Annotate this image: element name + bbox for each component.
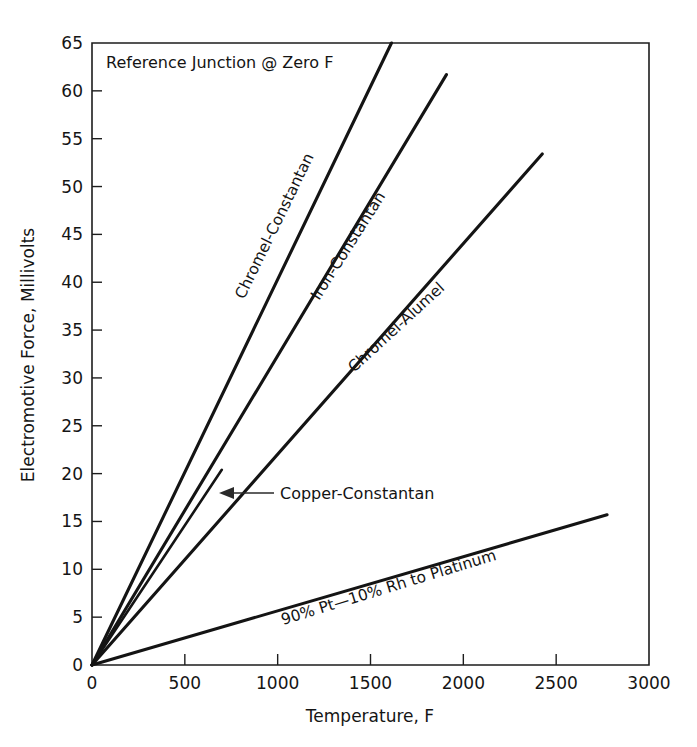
reference-junction-note: Reference Junction @ Zero F [106,53,333,72]
x-axis-title: Temperature, F [305,706,434,726]
series-inline-labels: Chromel-Constantan Iron-Constantan Chrom… [231,150,498,629]
y-tick-label: 30 [61,368,83,388]
x-axis-tick-labels: 050010001500200025003000 [87,673,671,693]
series-line-copper-constantan [92,470,222,665]
copper-constantan-callout: Copper-Constantan [219,484,434,503]
y-tick-label: 35 [61,320,83,340]
y-tick-label: 10 [61,559,83,579]
x-tick-label: 500 [169,673,201,693]
chart-svg: 05101520253035404550556065 0500100015002… [0,0,697,747]
series-line-chromel-constantan [92,43,391,665]
y-tick-label: 40 [61,272,83,292]
series-label-copper-constantan: Copper-Constantan [280,484,434,503]
y-tick-label: 50 [61,177,83,197]
x-tick-label: 1500 [349,673,392,693]
y-tick-label: 60 [61,81,83,101]
x-axis-ticks [185,654,556,665]
y-tick-label: 15 [61,511,83,531]
y-axis-tick-labels: 05101520253035404550556065 [61,33,83,675]
data-series-group [92,43,607,665]
series-label-pt-rh-platinum: 90% Pt—10% Rh to Platinum [279,546,498,629]
y-tick-label: 45 [61,224,83,244]
x-tick-label: 1000 [256,673,299,693]
y-tick-label: 65 [61,33,83,53]
series-label-chromel-alumel: Chromel-Alumel [345,279,449,376]
x-tick-label: 3000 [627,673,670,693]
y-tick-label: 25 [61,416,83,436]
y-tick-label: 55 [61,129,83,149]
series-label-iron-constantan: Iron-Constantan [307,188,389,303]
callout-arrow-head [219,487,234,499]
y-axis-ticks [92,91,102,617]
y-tick-label: 5 [72,607,83,627]
series-line-chromel-alumel [92,154,542,665]
y-axis-title: Electromotive Force, Millivolts [18,228,38,482]
y-tick-label: 0 [72,655,83,675]
y-tick-label: 20 [61,464,83,484]
x-tick-label: 0 [87,673,98,693]
x-tick-label: 2500 [535,673,578,693]
x-tick-label: 2000 [442,673,485,693]
thermocouple-emf-chart: 05101520253035404550556065 0500100015002… [0,0,697,747]
